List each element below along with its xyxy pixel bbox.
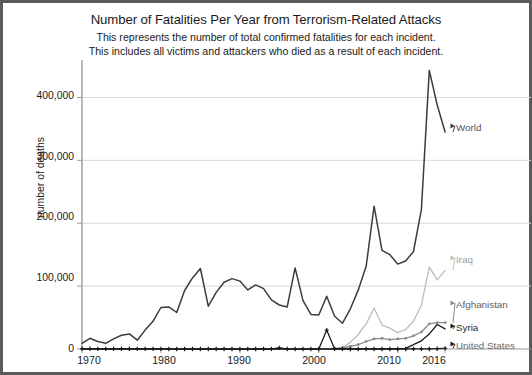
chart-inner: Number of Fatalities Per Year from Terro… [3, 3, 529, 372]
plot-area [4, 4, 532, 375]
data-series-group [80, 70, 447, 351]
series-label-iraq: Iraq [456, 254, 473, 265]
series-label-afghanistan: Afghanistan [456, 299, 508, 310]
series-label-united-states: United States [456, 340, 515, 351]
plot-svg [4, 4, 532, 375]
chart-frame: Number of Fatalities Per Year from Terro… [0, 0, 532, 375]
series-label-world: World [456, 122, 481, 133]
label-leader-lines [451, 123, 456, 348]
series-label-syria: Syria [456, 322, 478, 333]
